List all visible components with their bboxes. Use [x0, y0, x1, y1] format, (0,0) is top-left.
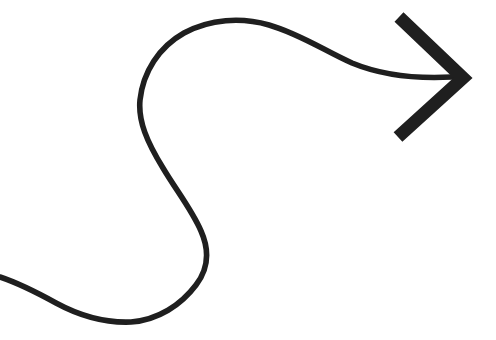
background-rect — [0, 0, 496, 340]
arrow-canvas: Curved arrow pointing right — [0, 0, 496, 340]
curved-arrow-graphic: Curved arrow pointing right — [0, 0, 496, 340]
